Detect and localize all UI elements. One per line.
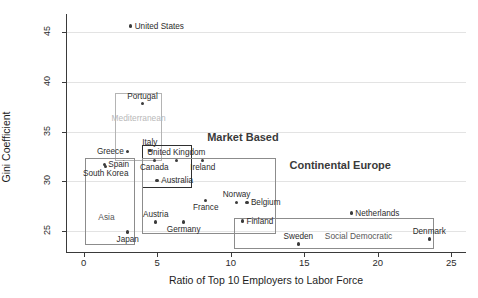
point-label-norway: Norway — [223, 190, 251, 199]
point-label-denmark: Denmark — [413, 227, 446, 236]
scatter-plot-figure: Gini Coefficient Ratio of Top 10 Employe… — [0, 0, 478, 298]
point-label-finland: Finland — [246, 217, 273, 226]
group-label-asia: Asia — [98, 212, 114, 222]
data-point — [297, 242, 300, 245]
point-label-netherlands: Netherlands — [355, 209, 399, 218]
y-tick-mark — [62, 82, 66, 83]
y-tick-mark — [62, 132, 66, 133]
y-axis-title: Gini Coefficient — [0, 72, 12, 222]
y-tick-mark — [62, 32, 66, 33]
x-axis-title: Ratio of Top 10 Employers to Labor Force — [66, 274, 466, 286]
x-tick-label: 10 — [216, 257, 246, 268]
point-label-greece: Greece — [97, 147, 124, 156]
point-label-austria: Austria — [143, 210, 168, 219]
group-label-social-democratic: Social Democratic — [325, 231, 393, 241]
y-tick-label: 25 — [42, 219, 52, 241]
x-tick-label: 15 — [289, 257, 319, 268]
data-point — [428, 237, 431, 240]
x-axis-line — [66, 252, 466, 253]
data-point — [129, 24, 132, 27]
data-point — [350, 211, 353, 214]
point-label-belgium: Belgium — [251, 198, 281, 207]
y-tick-mark — [62, 181, 66, 182]
data-point — [245, 201, 248, 204]
y-tick-label: 30 — [42, 169, 52, 191]
data-point — [153, 159, 156, 162]
point-label-japan: Japan — [117, 235, 139, 244]
data-point — [241, 219, 244, 222]
point-label-sweden: Sweden — [284, 232, 314, 241]
x-tick-label: 0 — [69, 257, 99, 268]
x-tick-label: 25 — [436, 257, 466, 268]
group-label-market-based: Market Based — [207, 131, 279, 143]
point-label-germany: Germany — [167, 225, 201, 234]
point-label-spain: Spain — [108, 160, 129, 169]
y-tick-label: 45 — [42, 20, 52, 42]
x-tick-label: 5 — [142, 257, 172, 268]
y-tick-label: 35 — [42, 120, 52, 142]
point-label-united-kingdom: United Kingdom — [147, 148, 205, 157]
y-tick-label: 40 — [42, 70, 52, 92]
gridline — [67, 82, 466, 83]
point-label-canada: Canada — [140, 163, 169, 172]
gridline — [67, 32, 466, 33]
y-axis-line — [66, 14, 67, 253]
group-label-mediterranean: Mediterranean — [112, 113, 166, 123]
point-label-france: France — [193, 203, 218, 212]
point-label-portugal: Portugal — [127, 92, 158, 101]
data-point — [155, 179, 158, 182]
point-label-ireland: Ireland — [190, 163, 215, 172]
plot-area: 2530354045 0510152025 MediterraneanMarke… — [66, 14, 466, 253]
point-label-south-korea: South Korea — [83, 169, 129, 178]
y-tick-mark — [62, 231, 66, 232]
data-point — [175, 159, 178, 162]
point-label-australia: Australia — [161, 176, 193, 185]
point-label-united-states: United States — [135, 21, 184, 30]
point-label-italy: Italy — [142, 138, 157, 147]
x-tick-label: 20 — [363, 257, 393, 268]
group-label-continental-europe: Continental Europe — [290, 159, 391, 171]
